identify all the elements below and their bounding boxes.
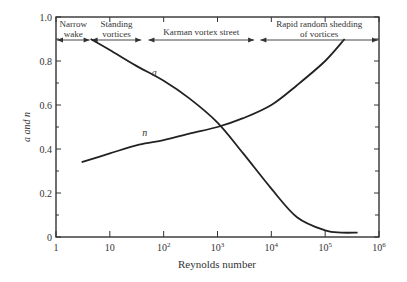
- y-tick-label: 1.0: [40, 12, 53, 23]
- y-tick-label: 0: [47, 232, 52, 243]
- arrow-right-icon: [135, 38, 141, 43]
- region-label: Rapid random shedding: [276, 19, 362, 29]
- region-label: vortices: [102, 29, 131, 39]
- arrow-left-icon: [148, 38, 154, 43]
- x-axis-label: Reynolds number: [178, 258, 256, 270]
- x-tick-label: 10: [105, 242, 115, 253]
- y-tick-label: 0.4: [40, 144, 53, 155]
- arrow-left-icon: [57, 38, 63, 43]
- arrow-right-icon: [248, 38, 254, 43]
- arrow-right-icon: [372, 38, 378, 43]
- region-label: Karman vortex street: [163, 27, 239, 37]
- y-tick-label: 0.6: [40, 100, 53, 111]
- arrow-left-icon: [260, 38, 266, 43]
- region-label: Standing: [100, 19, 133, 29]
- flow-regime-annotations: NarrowwakeStandingvorticesKarman vortex …: [57, 19, 378, 43]
- x-tick-label: 105: [318, 241, 332, 253]
- x-tick-label: 103: [211, 241, 225, 253]
- y-tick-label: 0.8: [40, 56, 53, 67]
- region-label: of vortices: [300, 29, 339, 39]
- curves: an: [82, 39, 358, 233]
- x-tick-label: 104: [265, 241, 279, 253]
- region-label: wake: [64, 29, 83, 39]
- y-tick-label: 0.2: [40, 188, 53, 199]
- x-axis: 110102103104105106: [54, 17, 387, 253]
- x-tick-label: 1: [54, 242, 59, 253]
- curve-label-n: n: [142, 127, 147, 138]
- x-tick-label: 102: [157, 241, 171, 253]
- arrow-right-icon: [84, 38, 90, 43]
- y-axis-label: a and n: [21, 112, 32, 142]
- region-label: Narrow: [60, 19, 88, 29]
- chart: 00.20.40.60.81.0 110102103104105106 Narr…: [0, 0, 407, 282]
- x-tick-label: 106: [372, 241, 386, 253]
- y-axis: 00.20.40.60.81.0: [40, 12, 380, 243]
- curve-label-a: a: [152, 67, 157, 78]
